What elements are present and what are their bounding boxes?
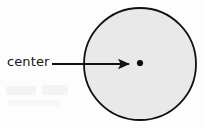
center-point-dot xyxy=(137,60,143,66)
center-label: center xyxy=(7,54,49,69)
figure-canvas: center xyxy=(0,0,204,128)
